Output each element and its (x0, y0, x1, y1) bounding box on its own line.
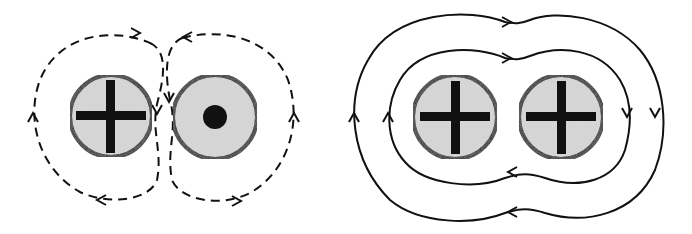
conductor-dot-icon (173, 75, 257, 159)
solid-field-line-outer (354, 15, 663, 221)
panel-opposite-currents (28, 28, 299, 206)
conductor-cross-icon (519, 75, 603, 159)
field-diagram (0, 0, 692, 234)
arrowhead-icon (349, 17, 660, 217)
conductor-cross-icon (70, 75, 152, 157)
conductor-cross-icon (413, 75, 497, 159)
panel-same-currents (349, 15, 663, 221)
